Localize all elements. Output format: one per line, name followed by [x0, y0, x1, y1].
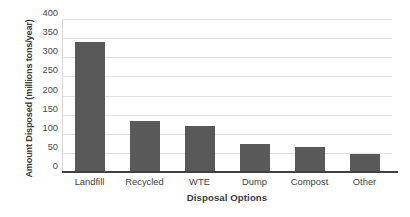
- y-axis-tick-label: 150: [34, 104, 58, 114]
- bar-landfill: [75, 42, 105, 172]
- bar-wte: [185, 126, 215, 172]
- x-axis-line: [62, 171, 398, 173]
- y-axis-tick-label: 50: [34, 142, 58, 152]
- y-axis-tick-label: 100: [34, 123, 58, 133]
- bar-compost: [295, 147, 325, 172]
- x-axis-tick-label: Dump: [227, 175, 282, 188]
- y-axis-tick-label: 300: [34, 46, 58, 56]
- x-axis-tick-labels: LandfillRecycledWTEDumpCompostOther: [62, 175, 392, 189]
- bar-recycled: [130, 121, 160, 172]
- bar-chart: Amount Disposed (millions tons/year) 400…: [0, 0, 410, 217]
- x-axis-title: Disposal Options: [62, 192, 392, 203]
- y-axis-tick-label: 0: [34, 161, 58, 171]
- x-axis-tick-label: Landfill: [62, 175, 117, 188]
- bar-dump: [240, 144, 270, 172]
- y-axis-tick-label: 250: [34, 65, 58, 75]
- y-axis-tick-labels: 400350300250200150100500: [34, 13, 58, 173]
- x-axis-tick-label: Compost: [282, 175, 337, 188]
- bars-layer: [62, 19, 392, 172]
- x-axis-tick-label: Other: [337, 175, 392, 188]
- x-axis-tick-label: WTE: [172, 175, 227, 188]
- y-axis-tick-label: 400: [34, 8, 58, 18]
- y-axis-tick-label: 350: [34, 27, 58, 37]
- bar-other: [350, 154, 380, 172]
- x-axis-tick-label: Recycled: [117, 175, 172, 188]
- y-axis-tick-label: 200: [34, 85, 58, 95]
